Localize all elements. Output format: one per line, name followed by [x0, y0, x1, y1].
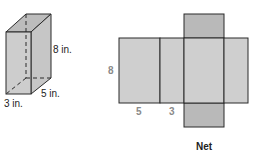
rectangular-prism: 8 in. 5 in. 3 in. [4, 14, 72, 109]
net-face-2 [160, 38, 184, 103]
figure-canvas: 8 in. 5 in. 3 in. 8 5 3 Net [0, 0, 254, 154]
net-segment-label-5: 5 [136, 106, 142, 117]
net-height-label: 8 [108, 65, 114, 76]
net-title: Net [196, 141, 213, 152]
net-segment-label-3: 3 [169, 106, 175, 117]
prism-depth-label: 5 in. [41, 88, 60, 99]
prism-height-label: 8 in. [53, 44, 72, 55]
prism-front-face [6, 32, 31, 94]
net-face-4 [224, 38, 248, 103]
net-bottom-flap [184, 103, 224, 127]
net-top-flap [184, 14, 224, 38]
prism-width-label: 3 in. [4, 98, 23, 109]
prism-net: 8 5 3 Net [108, 14, 248, 152]
net-face-1 [119, 38, 160, 103]
net-face-3 [184, 38, 224, 103]
